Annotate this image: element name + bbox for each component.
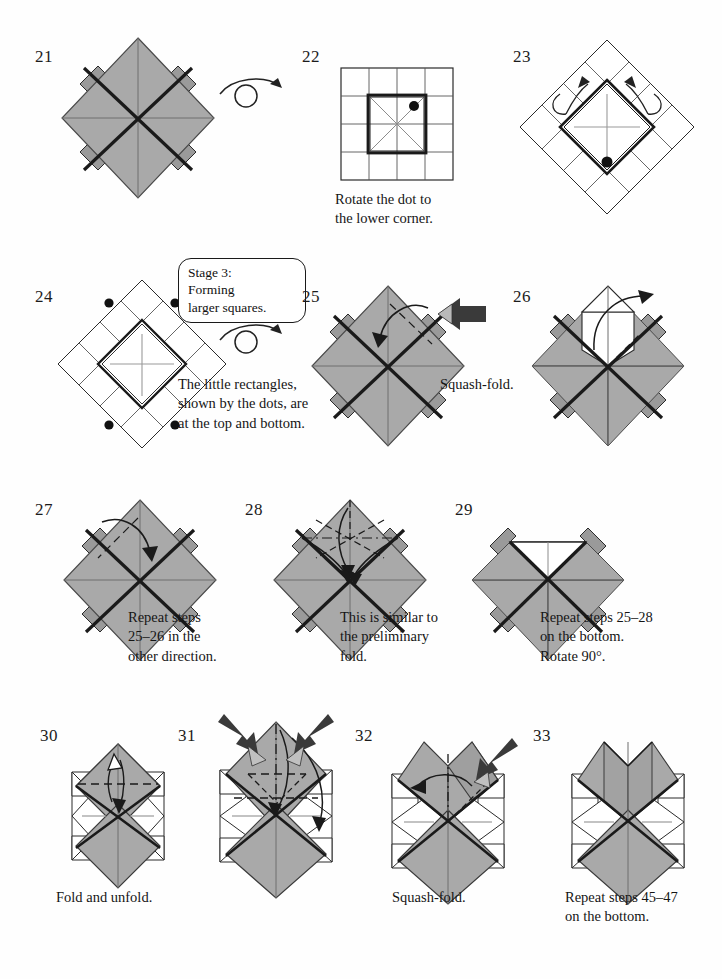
caption-line: Repeat steps 25–28 on the bottom. Rotate… xyxy=(540,609,653,664)
caption-step-32: Squash-fold. xyxy=(392,888,522,907)
caption-line: Squash-fold. xyxy=(440,376,514,392)
figure-step-26 xyxy=(520,272,706,462)
figure-step-31 xyxy=(196,712,356,902)
figure-step-22 xyxy=(335,62,459,186)
figure-step-32 xyxy=(368,728,528,904)
dot-marker xyxy=(602,157,613,168)
turn-over-arrow-icon-a xyxy=(216,72,288,116)
step-number-24: 24 xyxy=(35,287,53,307)
caption-step-33: Repeat steps 45–47 on the bottom. xyxy=(565,888,722,927)
figure-step-30 xyxy=(48,736,188,896)
figure-step-33 xyxy=(548,728,708,904)
step-number-27: 27 xyxy=(35,500,53,520)
figure-step-23 xyxy=(512,32,702,222)
caption-line: Squash-fold. xyxy=(392,889,466,905)
caption-line: Repeat steps 45–47 on the bottom. xyxy=(565,889,678,924)
step-number-22: 22 xyxy=(302,47,320,67)
diagram-page: 21 xyxy=(0,0,722,979)
dot-marker xyxy=(409,101,419,111)
caption-line: Fold and unfold. xyxy=(56,889,152,905)
caption-step-30: Fold and unfold. xyxy=(56,888,206,907)
stage-callout: Stage 3: Forming larger squares. xyxy=(178,258,306,323)
turn-over-arrow-icon-b xyxy=(216,318,288,362)
caption-line: This is similar to the preliminary fold. xyxy=(340,609,438,664)
step-number-28: 28 xyxy=(245,500,263,520)
caption-line: Repeat steps 25–26 in the other directio… xyxy=(128,609,217,664)
push-arrow-icon xyxy=(438,298,486,330)
caption-step-27: Repeat steps 25–26 in the other directio… xyxy=(128,608,258,666)
figure-step-21 xyxy=(54,28,230,214)
step-number-21: 21 xyxy=(35,47,53,67)
caption-step-22: Rotate the dot to the lower corner. xyxy=(335,190,495,229)
caption-line: Rotate the dot to the lower corner. xyxy=(335,191,433,226)
step-number-31: 31 xyxy=(178,726,196,746)
figure-step-25 xyxy=(300,272,486,462)
caption-step-28: This is similar to the preliminary fold. xyxy=(340,608,480,666)
caption-line: The little rectangles, shown by the dots… xyxy=(178,376,308,431)
caption-step-29: Repeat steps 25–28 on the bottom. Rotate… xyxy=(540,608,710,666)
